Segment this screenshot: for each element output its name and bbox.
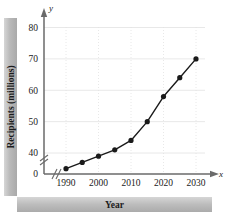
data-point: 2000: 39 [96,154,101,159]
x-tick-label: 2020 [154,178,173,188]
data-point: 2020: 58 [161,94,166,99]
y-tick-label: 70 [29,54,39,64]
chart-figure: Recipients (millions) Year 04050607080 1… [0,0,227,218]
data-point: 1995: 37 [80,160,85,165]
y-tick-label: 50 [29,117,39,127]
x-tick-label: 2030 [187,178,206,188]
data-point: 2015: 50 [145,119,150,124]
x-axis-symbol: x [218,169,223,179]
gridlines [44,27,205,174]
data-point: 2010: 44 [128,138,133,143]
axis-break-marks [40,155,61,179]
y-axis-symbol: y [48,3,53,13]
y-tick-label: 80 [29,23,39,33]
plot-area: 04050607080 19902000201020202030 1990: 3… [0,0,227,218]
axis-lines [41,8,219,177]
data-markers: 1990: 351995: 372000: 392005: 412010: 44… [63,56,198,171]
y-tick-labels: 04050607080 [29,23,39,180]
data-point: 1990: 35 [63,166,68,171]
y-tick-label: 60 [29,86,39,96]
y-tick-label: 0 [33,169,38,179]
x-tick-label: 1990 [57,178,76,188]
data-point: 2005: 41 [112,147,117,152]
x-tick-label: 2010 [122,178,141,188]
y-tick-label: 40 [29,148,39,158]
data-point: 2030: 70 [193,56,198,61]
x-tick-labels: 19902000201020202030 [57,178,206,188]
x-tick-label: 2000 [89,178,108,188]
data-point: 2025: 64 [177,75,182,80]
